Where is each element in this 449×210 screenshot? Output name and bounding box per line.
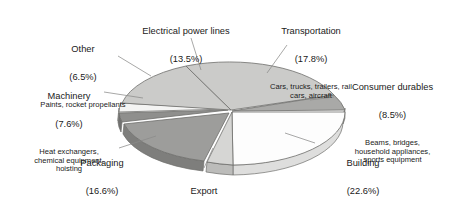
slice-label-name: Building [310, 158, 416, 168]
slice-label-percent: (22.6%) [310, 186, 416, 196]
slice-label-name: Consumer durables [336, 82, 449, 92]
slice-label-export: Export (6.9%) [173, 168, 235, 210]
slice-label-percent: (6.5%) [18, 72, 148, 82]
slice-label-name: Transportation [252, 26, 370, 36]
slice-label-description: Paints, rocket propellants [18, 101, 148, 110]
slice-label-building: Building (22.6%) Windows, doors, screens… [310, 140, 416, 210]
pie-chart-figure: Electrical power lines (13.5%) Transport… [0, 0, 449, 210]
slice-label-name: Other [18, 44, 148, 54]
slice-label-description: Heat exchangers, chemical equipment, hoi… [16, 148, 122, 174]
slice-label-other: Other (6.5%) Paints, rocket propellants [18, 26, 148, 127]
slice-label-percent: (8.5%) [336, 110, 449, 120]
slice-label-name: Export [173, 186, 235, 196]
